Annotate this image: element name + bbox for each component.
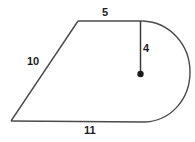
semicircle-arc: [143, 21, 191, 122]
center-point-dot: [137, 71, 143, 77]
dimension-label-radius: 4: [143, 42, 149, 54]
bottom-side-segment: [11, 121, 145, 122]
dimension-label-top: 5: [102, 6, 108, 18]
geometry-figure-canvas: 5 10 11 4: [0, 0, 195, 142]
dimension-label-bottom: 11: [84, 124, 96, 136]
geometry-diagram-svg: [0, 0, 195, 142]
dimension-label-left: 10: [27, 55, 39, 67]
left-slant-side-segment: [11, 21, 78, 121]
